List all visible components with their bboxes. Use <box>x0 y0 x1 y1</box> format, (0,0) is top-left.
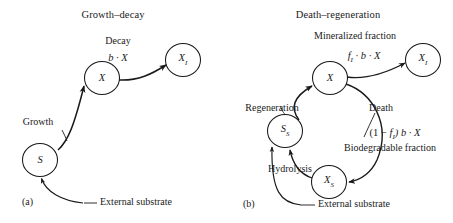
bio-close: ) b · X <box>395 127 421 138</box>
biodegradable-fraction-label: Biodegradable fraction <box>344 143 436 153</box>
bio-open: (1 − <box>370 127 390 138</box>
panel-b-letter: (b) <box>243 199 255 209</box>
regeneration-label: Regeneration <box>245 103 298 113</box>
panel-b-graphics <box>268 44 441 206</box>
node-label-xi-a-sub: I <box>185 59 187 67</box>
arrow-external-substrate-to-s <box>42 179 84 204</box>
arrow-external-substrate-to-ss <box>272 147 301 205</box>
death-label: Death <box>369 103 393 113</box>
panel-b-title: Death–regeneration <box>296 10 381 21</box>
decay-label: Decay <box>105 36 131 46</box>
node-label-xs: XS <box>324 175 334 188</box>
mineralized-fraction-label: Mineralized fraction <box>314 31 396 41</box>
external-substrate-label-a: External substrate <box>100 197 172 207</box>
node-label-x-b: X <box>327 73 333 84</box>
growth-label-leader <box>62 130 67 141</box>
decay-rate-expression: b · X <box>108 53 128 64</box>
growth-label: Growth <box>23 117 54 127</box>
arrow-mineralized-x-to-xi <box>347 63 405 78</box>
panel-a-title: Growth–decay <box>81 10 144 21</box>
mineralized-rest: · b · X <box>353 50 380 61</box>
node-label-xi-b-sub: I <box>425 59 427 67</box>
biodegradable-rate-expression: (1 − fI) b · X <box>370 128 421 141</box>
node-label-x-a: X <box>99 73 105 84</box>
node-label-s-text: S <box>37 154 42 165</box>
decay-rate-rest: · X <box>113 52 127 63</box>
panel-a-letter: (a) <box>22 197 33 207</box>
node-label-x-a-text: X <box>99 72 105 83</box>
figure-container: Growth–decay Decay b · X Growth External… <box>0 0 453 223</box>
node-label-xs-sub: S <box>330 181 334 189</box>
node-label-s: S <box>37 155 42 166</box>
hydrolysis-label: Hydrolysis <box>268 164 312 174</box>
mineralized-rate-expression: fI · b · X <box>348 51 381 64</box>
node-label-x-b-text: X <box>327 72 333 83</box>
node-label-xi-a: XI <box>179 53 188 66</box>
external-substrate-label-b: External substrate <box>318 199 390 209</box>
node-label-xi-b: XI <box>419 53 428 66</box>
arrow-decay-x-to-xi <box>119 65 166 80</box>
node-label-ss-sub: S <box>286 130 290 138</box>
node-label-ss: SS <box>281 124 290 137</box>
arrow-growth-s-to-x <box>58 86 84 150</box>
